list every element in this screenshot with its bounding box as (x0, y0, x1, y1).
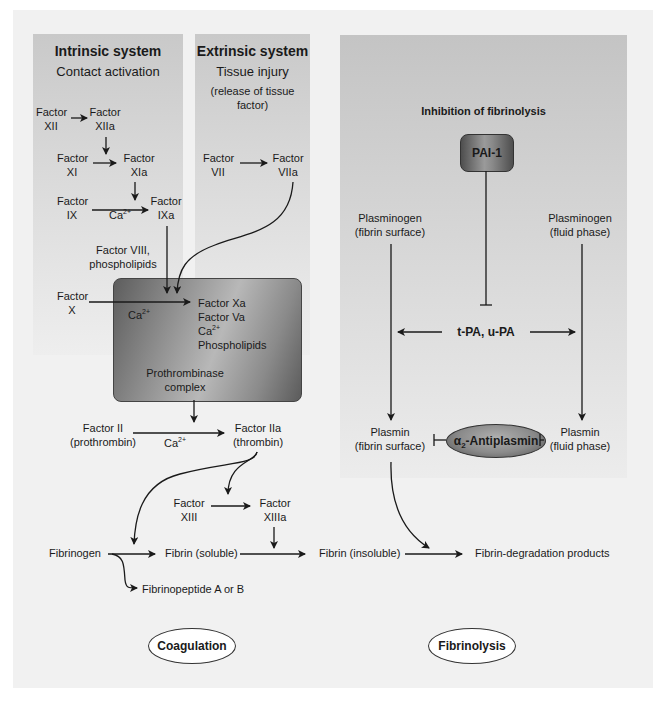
factor-x-line1: Factor (57, 289, 87, 303)
plasmin-fluid-phase: Plasmin (fluid phase) (540, 425, 620, 453)
component-factor-xa: Factor Xa (198, 296, 293, 310)
pai-1-box: PAI-1 (460, 134, 514, 172)
factor-x: Factor X (57, 289, 87, 317)
fibrin-degradation-products: Fibrin-degradation products (475, 546, 610, 560)
factor-xia-line2: XIa (122, 165, 156, 179)
factor-xiia: Factor XIIa (88, 105, 122, 133)
factor-xia-line1: Factor (122, 151, 156, 165)
calcium-x-text: Ca (128, 309, 142, 321)
factor-xiiia-line2: XIIIa (256, 510, 294, 524)
fibrin-soluble: Fibrin (soluble) (165, 546, 238, 560)
calcium-ii-text: Ca (164, 437, 178, 449)
calcium-ii: Ca2+ (162, 436, 188, 450)
factor-x-line2: X (57, 303, 87, 317)
factor-ixa: Factor IXa (148, 194, 184, 222)
factor-iia-thrombin: Factor IIa (thrombin) (228, 421, 288, 449)
factor-ii-line2: (prothrombin) (68, 435, 138, 449)
factor-ii-line1: Factor II (68, 421, 138, 435)
calcium-x: Ca2+ (126, 308, 152, 322)
component-calcium-charge: 2+ (212, 324, 220, 331)
extrinsic-note: (release of tissue factor) (195, 84, 310, 112)
plasmin-fluid-line1: Plasmin (540, 425, 620, 439)
calcium-ix-text: Ca (109, 209, 123, 221)
prothrombinase-label: Prothrombinase complex (135, 366, 235, 394)
factor-viii-line2: phospholipids (88, 257, 158, 271)
factor-xii: Factor XII (36, 105, 66, 133)
alpha2-antiplasmin-label: α2-Antiplasmin (454, 434, 539, 448)
fibrinolysis-inhibition-title: Inhibition of fibrinolysis (340, 104, 627, 118)
fibrinolysis-inhibition-panel (340, 35, 627, 478)
plasminogen-fibrin-surface: Plasminogen (fibrin surface) (350, 211, 430, 239)
factor-viii-phospholipids: Factor VIII, phospholipids (88, 243, 158, 271)
extrinsic-title: Extrinsic system (195, 43, 310, 59)
antiplasmin-name: -Antiplasmin (466, 434, 539, 448)
factor-iia-line1: Factor IIa (228, 421, 288, 435)
factor-viia-line1: Factor (271, 151, 305, 165)
fibrin-insoluble: Fibrin (insoluble) (319, 546, 400, 560)
fibrinolysis-text: Fibrinolysis (438, 639, 505, 653)
calcium-ix: Ca2+ (108, 208, 132, 222)
factor-xi: Factor XI (57, 151, 87, 179)
factor-ixa-line2: IXa (148, 208, 184, 222)
factor-xii-line1: Factor (36, 105, 66, 119)
factor-vii: Factor VII (203, 151, 233, 179)
calcium-x-charge: 2+ (142, 308, 150, 315)
fibrinolysis-label: Fibrinolysis (428, 628, 516, 664)
factor-xiiia: Factor XIIIa (256, 496, 294, 524)
prothrombinase-label-line2: complex (135, 380, 235, 394)
fibrinopeptide: Fibrinopeptide A or B (142, 582, 244, 596)
coagulation-text: Coagulation (157, 639, 226, 653)
factor-viia: Factor VIIa (271, 151, 305, 179)
prothrombinase-components: Factor Xa Factor Va Ca2+ Phospholipids (198, 296, 293, 352)
component-phospholipids: Phospholipids (198, 338, 293, 352)
component-calcium: Ca2+ (198, 324, 293, 338)
factor-xi-line1: Factor (57, 151, 87, 165)
factor-xia: Factor XIa (122, 151, 156, 179)
factor-ix-line1: Factor (57, 194, 87, 208)
factor-ix-line2: IX (57, 208, 87, 222)
prothrombinase-label-line1: Prothrombinase (135, 366, 235, 380)
factor-iia-line2: (thrombin) (228, 435, 288, 449)
extrinsic-note-line1: (release of tissue (195, 84, 310, 98)
plasmin-surface-line2: (fibrin surface) (350, 439, 430, 453)
factor-vii-line2: VII (203, 165, 233, 179)
factor-xiii: Factor XIII (172, 496, 206, 524)
factor-viia-line2: VIIa (271, 165, 305, 179)
component-factor-va: Factor Va (198, 310, 293, 324)
plasmin-surface-line1: Plasmin (350, 425, 430, 439)
plasminogen-fluid-line1: Plasminogen (540, 211, 620, 225)
pai-1-label: PAI-1 (472, 146, 502, 160)
extrinsic-note-line2: factor) (195, 98, 310, 112)
fibrinogen: Fibrinogen (49, 546, 101, 560)
factor-xii-line2: XII (36, 119, 66, 133)
component-calcium-text: Ca (198, 325, 212, 337)
plasminogen-surface-line2: (fibrin surface) (350, 225, 430, 239)
plasmin-fluid-line2: (fluid phase) (540, 439, 620, 453)
extrinsic-subtitle: Tissue injury (195, 64, 310, 79)
coagulation-label: Coagulation (148, 628, 236, 664)
factor-xiiia-line1: Factor (256, 496, 294, 510)
factor-ii: Factor II (prothrombin) (68, 421, 138, 449)
intrinsic-title: Intrinsic system (33, 43, 183, 59)
factor-ixa-line1: Factor (148, 194, 184, 208)
factor-xiii-line1: Factor (172, 496, 206, 510)
factor-ix: Factor IX (57, 194, 87, 222)
factor-xiii-line2: XIII (172, 510, 206, 524)
calcium-ii-charge: 2+ (178, 436, 186, 443)
plasminogen-fluid-phase: Plasminogen (fluid phase) (540, 211, 620, 239)
calcium-ix-charge: 2+ (123, 208, 131, 215)
factor-xiia-line2: XIIa (88, 119, 122, 133)
plasminogen-fluid-line2: (fluid phase) (540, 225, 620, 239)
tpa-upa-label: t-PA, u-PA (448, 325, 524, 339)
plasminogen-surface-line1: Plasminogen (350, 211, 430, 225)
factor-xiia-line1: Factor (88, 105, 122, 119)
intrinsic-subtitle: Contact activation (33, 64, 183, 79)
factor-viii-line1: Factor VIII, (88, 243, 158, 257)
factor-xi-line2: XI (57, 165, 87, 179)
alpha2-antiplasmin-ellipse: α2-Antiplasmin (446, 424, 546, 458)
plasmin-fibrin-surface: Plasmin (fibrin surface) (350, 425, 430, 453)
factor-vii-line1: Factor (203, 151, 233, 165)
